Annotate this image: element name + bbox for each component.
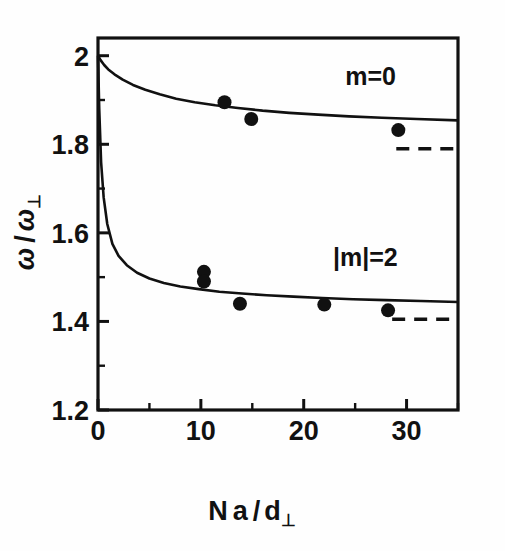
x-tick-label: 0 xyxy=(90,416,105,446)
x-title-d: d xyxy=(264,496,281,526)
data-point xyxy=(391,123,405,137)
data-point xyxy=(218,95,232,109)
label-m2: |m|=2 xyxy=(333,243,398,271)
y-title-omega2: ω xyxy=(10,209,40,232)
y-tick-label: 2 xyxy=(74,42,89,72)
x-title-a: a xyxy=(233,496,249,526)
y-title-perp: ⊥ xyxy=(25,194,44,209)
x-tick-label: 30 xyxy=(392,416,422,446)
data-point xyxy=(317,298,331,312)
data-point xyxy=(381,303,395,317)
x-title-N: N xyxy=(208,496,228,526)
x-title-slash: / xyxy=(253,496,261,526)
y-tick-label: 1.8 xyxy=(51,130,89,160)
y-title-slash: / xyxy=(10,235,40,243)
data-point xyxy=(197,275,211,289)
x-title-perp: ⊥ xyxy=(281,511,296,530)
data-point xyxy=(244,112,258,126)
x-tick-label: 10 xyxy=(186,416,216,446)
data-point xyxy=(233,297,247,311)
y-tick-label: 1.4 xyxy=(51,307,89,337)
chart-figure: 0102030 1.21.41.61.82 m=0|m|=2 Na/d⊥ ω/ω… xyxy=(0,0,505,551)
chart-svg: 0102030 1.21.41.61.82 m=0|m|=2 Na/d⊥ ω/ω… xyxy=(0,0,505,551)
label-m0: m=0 xyxy=(345,62,396,90)
y-tick-label: 1.6 xyxy=(51,219,89,249)
x-tick-label: 20 xyxy=(289,416,319,446)
y-title-omega: ω xyxy=(10,248,40,271)
figure-background xyxy=(0,0,505,551)
y-tick-label: 1.2 xyxy=(51,396,89,426)
